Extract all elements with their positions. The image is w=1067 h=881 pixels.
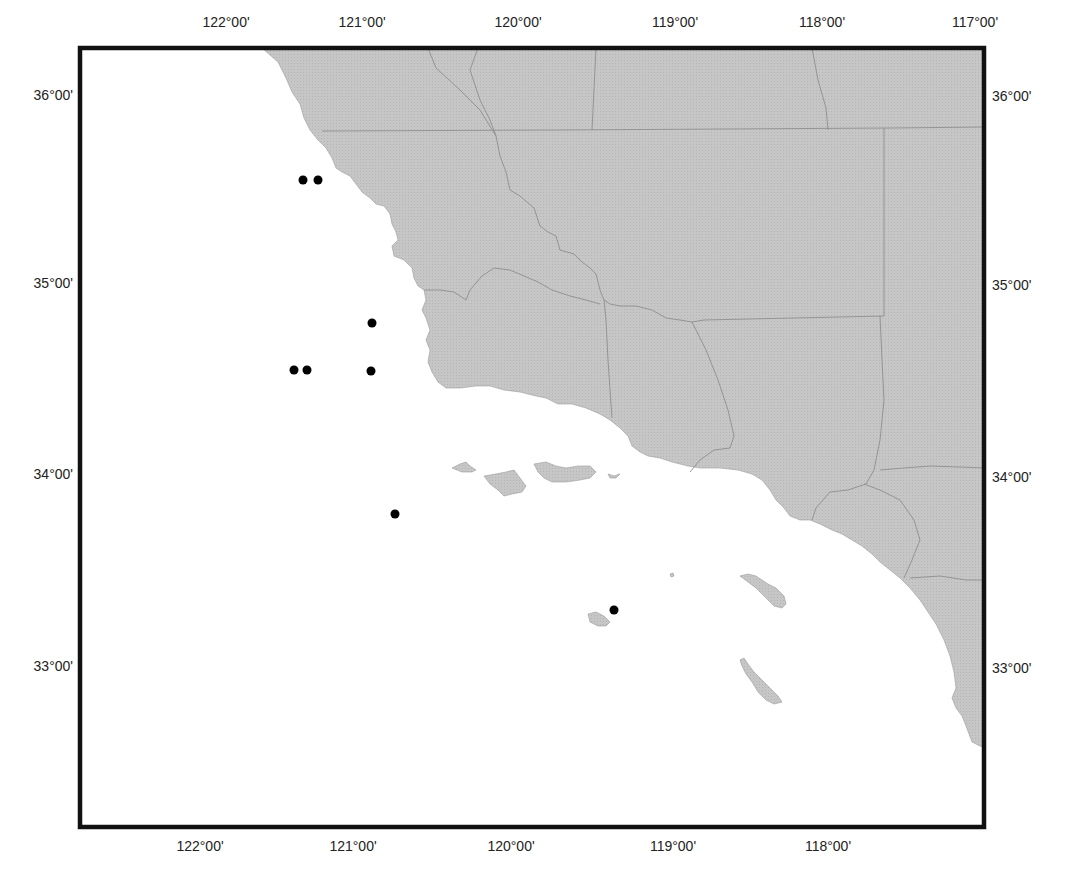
lat-label-left-34: 34°00' [34, 466, 73, 482]
lon-label-top-117: 117°00' [952, 14, 998, 30]
island-santa-barbara [670, 573, 674, 577]
lon-label-top-122: 122°00' [202, 14, 249, 30]
lon-label-top-121: 121°00' [338, 14, 385, 30]
point-8[interactable] [610, 606, 619, 615]
lon-label-bottom-120: 120°00' [487, 838, 534, 854]
lat-label-left-35: 35°00' [34, 275, 73, 291]
lat-label-left-33: 33°00' [34, 658, 73, 674]
point-5[interactable] [303, 366, 312, 375]
map-canvas [0, 0, 1067, 881]
lon-label-bottom-118: 118°00' [805, 838, 851, 854]
lat-label-right-36: 36°00' [992, 88, 1031, 104]
point-4[interactable] [290, 366, 299, 375]
lon-label-bottom-122: 122°00' [176, 838, 223, 854]
point-3[interactable] [368, 319, 377, 328]
point-1[interactable] [299, 176, 308, 185]
point-6[interactable] [367, 367, 376, 376]
lat-label-left-36: 36°00' [34, 87, 73, 103]
lat-label-right-34: 34°00' [992, 469, 1031, 485]
point-2[interactable] [314, 176, 323, 185]
lat-label-right-33: 33°00' [992, 660, 1031, 676]
point-7[interactable] [391, 510, 400, 519]
lon-label-top-118: 118°00' [799, 14, 845, 30]
lon-label-top-119: 119°00' [652, 14, 698, 30]
lon-label-bottom-119: 119°00' [650, 838, 696, 854]
lon-label-bottom-121: 121°00' [329, 838, 376, 854]
lon-label-top-120: 120°00' [494, 14, 541, 30]
lat-label-right-35: 35°00' [992, 277, 1031, 293]
